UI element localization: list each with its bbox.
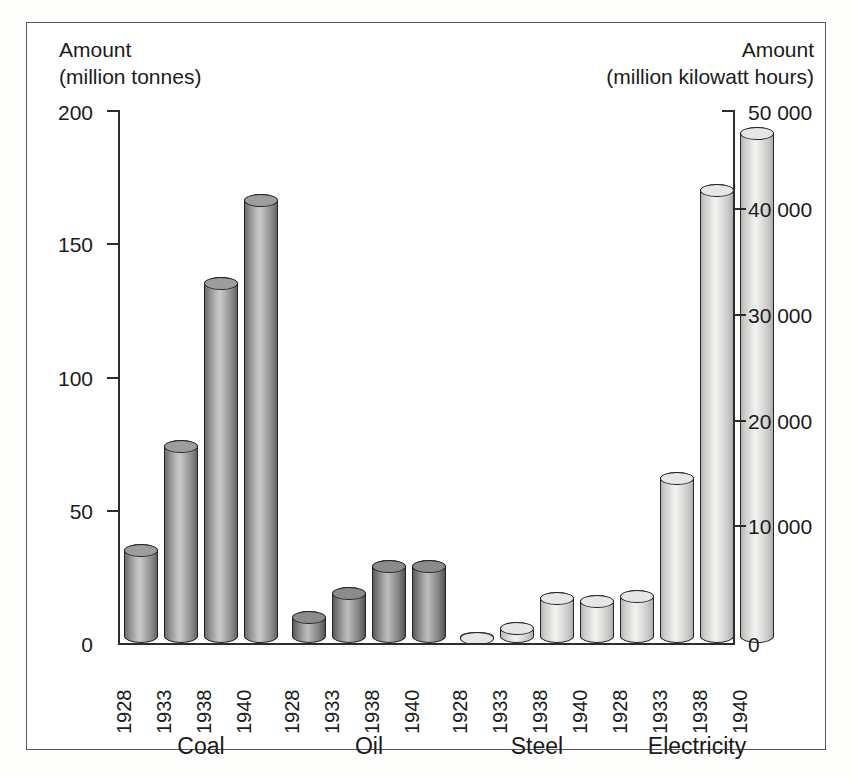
x-label-electricity-1933: 1933: [650, 690, 670, 735]
cylinder-top: [412, 560, 446, 573]
left-axis-label-50: 50: [70, 501, 93, 522]
bar-coal-1938: [204, 277, 238, 643]
group-label-coal: Coal: [124, 735, 278, 758]
left-axis-label-200: 200: [58, 102, 93, 123]
bar-steel-1938: [540, 592, 574, 643]
right-axis-label-10000: 10 000: [748, 516, 812, 537]
cylinder-top: [164, 440, 198, 453]
x-label-electricity-1928: 1928: [610, 690, 630, 735]
group-label-oil: Oil: [292, 735, 446, 758]
baseline-left: [118, 643, 618, 645]
right-axis-tick-40000: [735, 208, 746, 210]
bar-electricity-1928: [620, 590, 654, 643]
right-axis-tick-10000: [735, 525, 746, 527]
left-axis-tick-50: [107, 510, 118, 512]
x-label-electricity-1938: 1938: [690, 690, 710, 735]
bar-oil-1938: [372, 560, 406, 643]
cylinder-top: [540, 592, 574, 605]
bar-oil-1928: [292, 611, 326, 643]
cylinder-top: [332, 587, 366, 600]
right-axis-label-50000: 50 000: [748, 102, 812, 123]
left-axis-label-150: 150: [58, 234, 93, 255]
x-label-steel-1938: 1938: [530, 690, 550, 735]
right-axis-tick-50000: [722, 110, 735, 112]
x-label-steel-1933: 1933: [490, 690, 510, 735]
x-label-steel-1928: 1928: [450, 690, 470, 735]
x-label-oil-1940: 1940: [402, 690, 422, 735]
x-label-oil-1928: 1928: [282, 690, 302, 735]
left-axis-tick-100: [107, 377, 118, 379]
x-label-coal-1933: 1933: [154, 690, 174, 735]
right-axis-label-0: 0: [748, 634, 760, 655]
bar-electricity-1938: [700, 184, 734, 643]
cylinder-top: [500, 622, 534, 635]
cylinder-top: [372, 560, 406, 573]
cylinder-top: [244, 194, 278, 207]
left-axis-label-0: 0: [81, 634, 93, 655]
group-label-electricity: Electricity: [620, 735, 774, 758]
right-axis-label-20000: 20 000: [748, 411, 812, 432]
group-label-steel: Steel: [460, 735, 614, 758]
right-axis-tick-20000: [735, 420, 746, 422]
x-label-coal-1938: 1938: [194, 690, 214, 735]
left-axis-label-100: 100: [58, 368, 93, 389]
cylinder-top: [620, 590, 654, 603]
bar-oil-1933: [332, 587, 366, 643]
bar-steel-1940: [580, 595, 614, 643]
x-label-oil-1933: 1933: [322, 690, 342, 735]
right-axis-label-30000: 30 000: [748, 305, 812, 326]
left-axis-tick-150: [107, 243, 118, 245]
x-label-electricity-1940: 1940: [730, 690, 750, 735]
right-axis-tick-30000: [735, 314, 746, 316]
bar-oil-1940: [412, 560, 446, 643]
left-axis-line: [118, 110, 120, 645]
cylinder-top: [580, 595, 614, 608]
cylinder-top: [292, 611, 326, 624]
bar-coal-1928: [124, 544, 158, 643]
figure: Amount (million tonnes) Amount (million …: [0, 0, 853, 776]
bar-steel-1928: [460, 632, 494, 643]
x-label-oil-1938: 1938: [362, 690, 382, 735]
bar-coal-1933: [164, 440, 198, 643]
plot-area: 200 150 100 50 0 50 000 40 000 30 000 20…: [0, 0, 853, 776]
x-label-coal-1928: 1928: [114, 690, 134, 735]
baseline-right: [616, 643, 735, 645]
cylinder-top: [124, 544, 158, 557]
bar-steel-1933: [500, 622, 534, 643]
cylinder-top: [660, 472, 694, 485]
cylinder-top: [204, 277, 238, 290]
cylinder-top: [740, 127, 774, 140]
bar-electricity-1933: [660, 472, 694, 643]
cylinder-top: [700, 184, 734, 197]
x-label-coal-1940: 1940: [234, 690, 254, 735]
right-axis-label-40000: 40 000: [748, 199, 812, 220]
left-axis-tick-200: [107, 110, 120, 112]
right-axis-line: [733, 110, 735, 645]
bar-coal-1940: [244, 194, 278, 643]
x-label-steel-1940: 1940: [570, 690, 590, 735]
